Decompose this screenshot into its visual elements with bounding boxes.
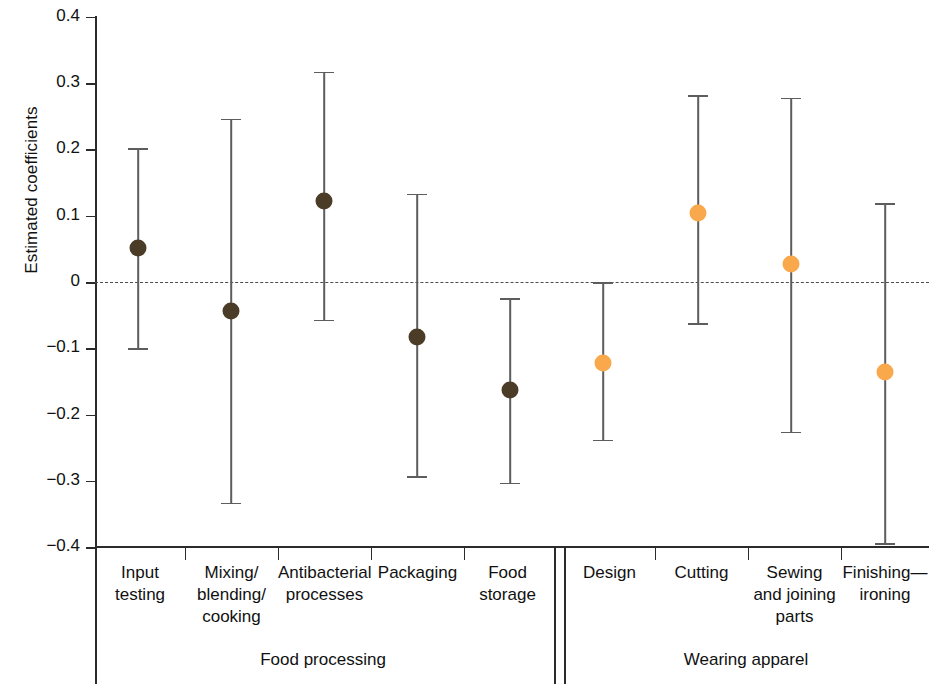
- y-tick-label: −0.4: [28, 536, 80, 556]
- x-axis-line: [95, 546, 929, 548]
- error-bar-cap-upper: [221, 119, 241, 121]
- category-separator-tick: [748, 547, 749, 560]
- group-divider: [554, 547, 556, 684]
- data-point[interactable]: [223, 303, 240, 320]
- category-separator-tick: [464, 547, 465, 560]
- y-tick-mark: [86, 149, 95, 151]
- category-separator-tick: [185, 547, 186, 560]
- category-label: Foodstorage: [464, 562, 551, 606]
- error-bar-cap-upper: [314, 72, 334, 74]
- error-bar-cap-upper: [781, 98, 801, 100]
- data-point[interactable]: [502, 382, 519, 399]
- y-tick-label: 0.4: [28, 6, 80, 26]
- error-bar-cap-lower: [407, 476, 427, 478]
- data-point[interactable]: [130, 240, 147, 257]
- y-tick-mark: [86, 282, 95, 284]
- y-tick-label: 0.3: [28, 72, 80, 92]
- error-bar-cap-upper: [128, 148, 148, 150]
- error-bar-cap-lower: [221, 503, 241, 505]
- data-point[interactable]: [877, 364, 894, 381]
- category-label-line: cooking: [185, 606, 278, 628]
- error-bar-cap-lower: [781, 432, 801, 434]
- category-label: Design: [564, 562, 655, 584]
- category-label: Inputtesting: [95, 562, 185, 606]
- data-point[interactable]: [316, 193, 333, 210]
- y-tick-mark: [86, 547, 95, 549]
- category-label-line: Cutting: [655, 562, 748, 584]
- y-tick-label: −0.1: [28, 337, 80, 357]
- category-label-line: storage: [464, 584, 551, 606]
- category-label-line: Input: [95, 562, 185, 584]
- category-label-line: Antibacterial: [278, 562, 371, 584]
- error-bar-cap-lower: [500, 483, 520, 485]
- category-label: Mixing/blending/cooking: [185, 562, 278, 627]
- error-bar-cap-upper: [875, 203, 895, 205]
- category-separator-tick: [841, 547, 842, 560]
- category-separator-tick: [655, 547, 656, 560]
- y-tick-mark: [86, 83, 95, 85]
- y-tick-label: −0.3: [28, 470, 80, 490]
- group-label: Wearing apparel: [626, 650, 866, 670]
- error-bar-cap-lower: [314, 320, 334, 322]
- category-label: Packaging: [371, 562, 464, 584]
- category-label-line: ironing: [841, 584, 929, 606]
- error-bar-cap-upper: [593, 282, 613, 284]
- data-point[interactable]: [595, 354, 612, 371]
- category-label: Sewingand joiningparts: [748, 562, 841, 627]
- y-tick-label: −0.2: [28, 404, 80, 424]
- category-label: Finishing—ironing: [841, 562, 929, 606]
- chart-figure: Estimated coefficients 0.40.30.20.10−0.1…: [0, 0, 929, 684]
- error-bar-cap-upper: [688, 95, 708, 97]
- group-label: Food processing: [203, 650, 443, 670]
- category-label-line: Design: [564, 562, 655, 584]
- y-tick-mark: [86, 415, 95, 417]
- y-tick-mark: [86, 481, 95, 483]
- error-bar-cap-upper: [500, 298, 520, 300]
- category-label-line: Packaging: [371, 562, 464, 584]
- category-separator-tick: [371, 547, 372, 560]
- y-tick-mark: [86, 216, 95, 218]
- category-label: Cutting: [655, 562, 748, 584]
- category-label-line: Finishing—: [841, 562, 929, 584]
- category-label-line: Mixing/: [185, 562, 278, 584]
- error-bar-cap-lower: [688, 323, 708, 325]
- data-point[interactable]: [690, 205, 707, 222]
- data-point[interactable]: [783, 256, 800, 273]
- error-bar-cap-lower: [875, 543, 895, 545]
- category-label-line: processes: [278, 584, 371, 606]
- y-tick-mark: [86, 17, 95, 19]
- y-tick-label: 0.1: [28, 205, 80, 225]
- y-tick-label: 0.2: [28, 138, 80, 158]
- category-label-line: parts: [748, 606, 841, 628]
- category-label: Antibacterialprocesses: [278, 562, 371, 606]
- zero-reference-line: [95, 282, 929, 283]
- y-tick-label: 0: [28, 271, 80, 291]
- error-bar-cap-lower: [593, 440, 613, 442]
- error-bar-cap-upper: [407, 194, 427, 196]
- category-label-line: and joining: [748, 584, 841, 606]
- data-point[interactable]: [409, 329, 426, 346]
- y-tick-mark: [86, 348, 95, 350]
- category-label-line: testing: [95, 584, 185, 606]
- category-label-line: Food: [464, 562, 551, 584]
- category-label-line: blending/: [185, 584, 278, 606]
- category-separator-tick: [278, 547, 279, 560]
- category-label-line: Sewing: [748, 562, 841, 584]
- error-bar-cap-lower: [128, 348, 148, 350]
